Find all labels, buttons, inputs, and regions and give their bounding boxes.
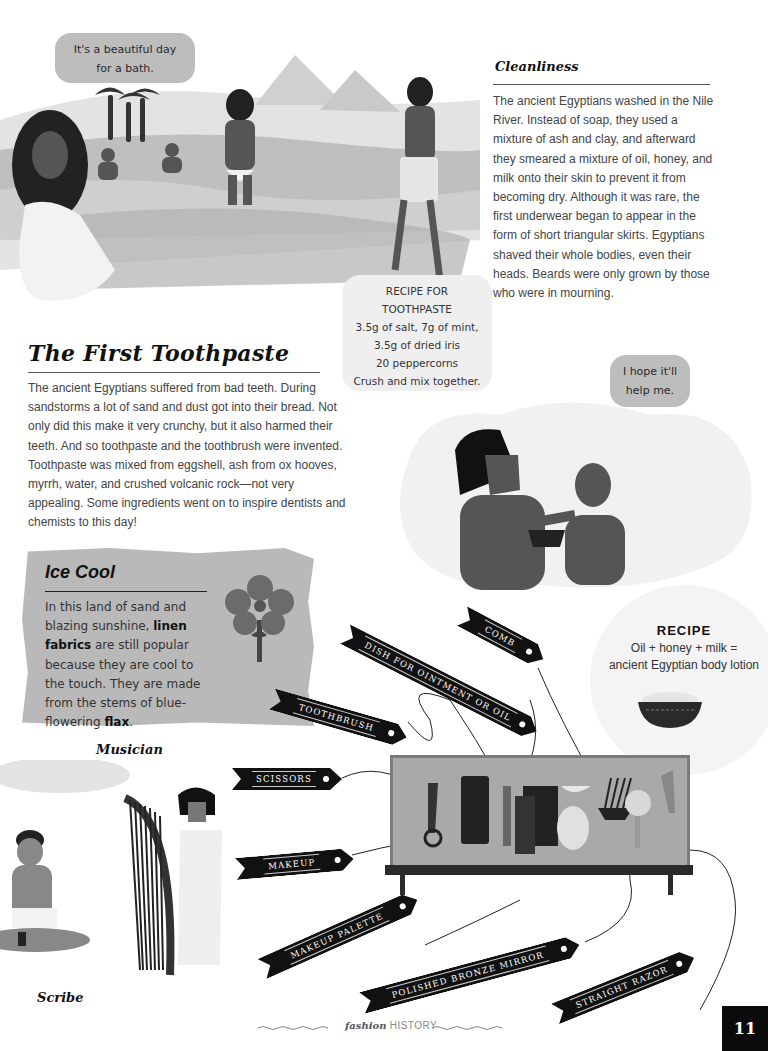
label-comb-text: COMB: [478, 619, 522, 652]
label-scissors: SCISSORS: [232, 768, 342, 790]
patient-speech-bubble: I hope it'll help me.: [610, 355, 690, 407]
table-shelf: [385, 865, 693, 875]
table-leg: [668, 875, 673, 895]
label-makeup-text: MAKEUP: [263, 854, 320, 875]
cleanliness-text: The ancient Egyptians washed in the Nile…: [493, 92, 718, 303]
musician-scribe-illustration: [0, 760, 240, 990]
recipe-line: 3.5g of salt, 7g of mint,: [342, 318, 492, 336]
footer-brand: fashion HISTORY: [345, 1020, 437, 1031]
recipe-line: 20 peppercorns: [342, 354, 492, 372]
patient-speech-line-1: I hope it'll: [610, 362, 690, 381]
recipe-line: 3.5g of dried iris: [342, 336, 492, 354]
bath-speech-bubble: It's a beautiful day for a bath.: [55, 33, 195, 83]
ice-text-flax: flax: [104, 715, 129, 729]
flax-flower-icon: [225, 575, 295, 665]
dentist-scene-illustration: [390, 395, 760, 595]
footer-wave-left: [258, 1025, 328, 1031]
label-straight-razor-text: STRAIGHT RAZOR: [569, 960, 674, 1015]
first-toothpaste-divider: [28, 372, 320, 373]
lotion-recipe-text: Oil + honey + milk = ancient Egyptian bo…: [590, 640, 768, 674]
first-toothpaste-text: The ancient Egyptians suffered from bad …: [28, 379, 348, 533]
table-leg: [400, 875, 405, 895]
musician-caption: Musician: [96, 742, 163, 757]
label-makeup-palette: MAKEUP PALETTE: [258, 890, 422, 979]
ice-cool-heading: Ice Cool: [45, 562, 115, 583]
patient-speech-line-2: help me.: [610, 381, 690, 400]
footer-brand-italic: fashion: [345, 1020, 386, 1031]
lotion-recipe-circle: [590, 585, 768, 775]
scribe-caption: Scribe: [37, 990, 83, 1005]
label-straight-razor: STRAIGHT RAZOR: [551, 948, 698, 1025]
lotion-bowl-icon: [636, 690, 704, 730]
label-makeup: MAKEUP: [235, 848, 354, 880]
cleanliness-divider: [493, 84, 710, 85]
label-comb: COMB: [457, 606, 549, 669]
label-bronze-mirror: POLISHED BRONZE MIRROR: [359, 934, 582, 1013]
lotion-recipe-title: RECIPE: [590, 623, 768, 638]
lotion-recipe-line: Oil + honey + milk =: [590, 640, 768, 657]
ice-text-part: .: [129, 715, 133, 729]
recipe-line: Crush and mix together.: [342, 372, 492, 390]
footer-brand-caps: HISTORY: [390, 1020, 438, 1031]
items-table-illustration: [390, 755, 690, 870]
ice-cool-text: In this land of sand and blazing sunshin…: [45, 598, 210, 732]
toothpaste-recipe-bubble: RECIPE FOR TOOTHPASTE 3.5g of salt, 7g o…: [342, 275, 492, 391]
label-makeup-palette-text: MAKEUP PALETTE: [284, 906, 390, 965]
recipe-line: TOOTHPASTE: [342, 300, 492, 318]
bath-speech-line-2: for a bath.: [55, 59, 195, 78]
footer-wave-right: [432, 1025, 502, 1031]
bath-speech-line-1: It's a beautiful day: [55, 40, 195, 59]
lotion-recipe-line: ancient Egyptian body lotion: [590, 657, 768, 674]
page-number: 11: [722, 1006, 768, 1051]
recipe-line: RECIPE FOR: [342, 282, 492, 300]
ice-cool-divider: [45, 591, 207, 592]
cleanliness-heading: Cleanliness: [495, 59, 579, 74]
label-dish-text: DISH FOR OINTMENT OR OIL: [358, 635, 518, 727]
label-scissors-text: SCISSORS: [252, 771, 316, 787]
first-toothpaste-heading: The First Toothpaste: [28, 340, 289, 366]
label-toothbrush-text: TOOTHBRUSH: [293, 698, 380, 737]
label-bronze-mirror-text: POLISHED BRONZE MIRROR: [386, 946, 550, 1004]
